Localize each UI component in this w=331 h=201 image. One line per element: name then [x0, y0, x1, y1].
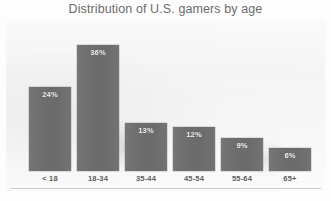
- bar-value-label-5: 6%: [269, 151, 311, 160]
- bar-group-3: 12%: [172, 41, 216, 171]
- bar-2[interactable]: 13%: [125, 123, 167, 171]
- bar-group-1: 36%: [76, 41, 120, 171]
- bar-value-label-0: 24%: [29, 90, 71, 99]
- bar-group-0: 24%: [28, 41, 72, 171]
- bar-1[interactable]: 36%: [77, 45, 119, 171]
- bar-5[interactable]: 6%: [269, 148, 311, 171]
- bar-value-label-1: 36%: [77, 48, 119, 57]
- bottom-rule: [10, 188, 321, 189]
- bar-value-label-2: 13%: [125, 126, 167, 135]
- category-label-5: 65+: [255, 174, 325, 183]
- bar-group-4: 9%: [220, 41, 264, 171]
- bar-3[interactable]: 12%: [173, 127, 215, 171]
- chart-figure: Distribution of U.S. gamers by age 24% <…: [0, 0, 331, 201]
- bar-group-5: 6%: [268, 41, 312, 171]
- plot-area: 24% < 18 36% 18-34 13% 35-44 12% 45-54: [0, 0, 331, 201]
- bar-group-2: 13%: [124, 41, 168, 171]
- bar-0[interactable]: 24%: [29, 87, 71, 171]
- bar-value-label-4: 9%: [221, 141, 263, 150]
- bar-value-label-3: 12%: [173, 130, 215, 139]
- bar-4[interactable]: 9%: [221, 138, 263, 171]
